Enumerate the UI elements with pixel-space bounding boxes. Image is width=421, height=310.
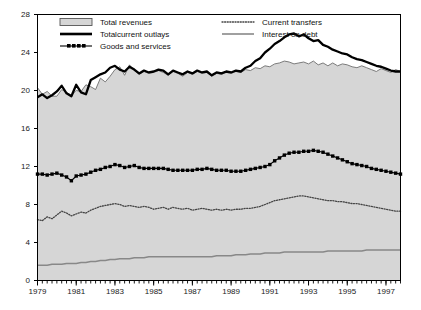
x-tick-label: 1983 <box>95 287 135 296</box>
goods-and-services-marker <box>239 170 242 173</box>
goods-and-services-marker <box>79 173 82 176</box>
goods-and-services-marker <box>70 179 73 182</box>
goods-and-services-marker <box>297 151 300 154</box>
goods-and-services-marker <box>317 150 320 153</box>
legend-label: Interest on debt <box>262 30 318 39</box>
goods-and-services-marker <box>118 164 121 167</box>
goods-and-services-marker <box>287 152 290 155</box>
goods-and-services-marker <box>162 167 165 170</box>
y-tick-label: 28 <box>8 10 30 19</box>
y-tick-label: 4 <box>8 238 30 247</box>
goods-and-services-marker <box>225 169 228 172</box>
x-tick-label: 1991 <box>250 287 290 296</box>
goods-and-services-marker <box>123 166 126 169</box>
goods-and-services-marker <box>249 168 252 171</box>
goods-and-services-marker <box>258 166 261 169</box>
legend-swatch-goods-and-services-marker <box>82 44 86 48</box>
chart-plot-area: Total revenuesTotalcurrent outlaysGoods … <box>0 0 421 310</box>
goods-and-services-marker <box>365 165 368 168</box>
goods-and-services-marker <box>205 167 208 170</box>
goods-and-services-marker <box>60 173 63 176</box>
goods-and-services-marker <box>166 168 169 171</box>
goods-and-services-marker <box>394 171 397 174</box>
y-tick-label: 0 <box>8 276 30 285</box>
y-tick-label: 8 <box>8 200 30 209</box>
goods-and-services-marker <box>220 169 223 172</box>
goods-and-services-marker <box>268 163 271 166</box>
legend-label: Totalcurrent outlays <box>100 30 169 39</box>
goods-and-services-marker <box>133 164 136 167</box>
goods-and-services-marker <box>196 168 199 171</box>
goods-and-services-marker <box>176 169 179 172</box>
x-tick-label: 1997 <box>366 287 406 296</box>
x-tick-label: 1989 <box>211 287 251 296</box>
goods-and-services-marker <box>234 170 237 173</box>
goods-and-services-marker <box>273 159 276 162</box>
goods-and-services-marker <box>210 168 213 171</box>
goods-and-services-marker <box>94 169 97 172</box>
goods-and-services-marker <box>229 170 232 173</box>
goods-and-services-marker <box>157 167 160 170</box>
goods-and-services-marker <box>191 169 194 172</box>
goods-and-services-marker <box>283 153 286 156</box>
legend-label: Goods and services <box>100 42 171 51</box>
goods-and-services-marker <box>113 163 116 166</box>
y-tick-label: 16 <box>8 124 30 133</box>
legend-swatch-total-revenues <box>60 19 92 26</box>
goods-and-services-marker <box>307 150 310 153</box>
goods-and-services-marker <box>375 168 378 171</box>
goods-and-services-marker <box>360 164 363 167</box>
legend-label: Current transfers <box>262 18 322 27</box>
goods-and-services-marker <box>215 169 218 172</box>
goods-and-services-marker <box>263 165 266 168</box>
goods-and-services-marker <box>99 168 102 171</box>
goods-and-services-marker <box>321 151 324 154</box>
y-tick-label: 24 <box>8 48 30 57</box>
goods-and-services-marker <box>104 166 107 169</box>
goods-and-services-marker <box>128 165 131 168</box>
goods-and-services-marker <box>147 167 150 170</box>
goods-and-services-marker <box>75 174 78 177</box>
legend-swatch-goods-and-services-marker <box>72 44 76 48</box>
goods-and-services-marker <box>186 169 189 172</box>
goods-and-services-marker <box>142 167 145 170</box>
goods-and-services-marker <box>84 172 87 175</box>
x-tick-label: 1993 <box>289 287 329 296</box>
goods-and-services-marker <box>89 171 92 174</box>
goods-and-services-marker <box>55 171 58 174</box>
goods-and-services-marker <box>389 171 392 174</box>
goods-and-services-marker <box>336 156 339 159</box>
legend-swatch-goods-and-services-marker <box>77 44 81 48</box>
goods-and-services-marker <box>65 175 68 178</box>
goods-and-services-marker <box>370 167 373 170</box>
x-tick-label: 1985 <box>134 287 174 296</box>
goods-and-services-marker <box>346 160 349 163</box>
goods-and-services-marker <box>292 151 295 154</box>
x-tick-label: 1995 <box>327 287 367 296</box>
goods-and-services-marker <box>379 169 382 172</box>
goods-and-services-marker <box>355 163 358 166</box>
x-tick-label: 1979 <box>18 287 58 296</box>
goods-and-services-marker <box>41 172 44 175</box>
goods-and-services-marker <box>326 152 329 155</box>
goods-and-services-marker <box>137 166 140 169</box>
goods-and-services-marker <box>200 168 203 171</box>
goods-and-services-marker <box>278 156 281 159</box>
goods-and-services-marker <box>312 149 315 152</box>
x-tick-label: 1987 <box>172 287 212 296</box>
goods-and-services-marker <box>331 154 334 157</box>
goods-and-services-marker <box>350 162 353 165</box>
goods-and-services-marker <box>302 150 305 153</box>
goods-and-services-marker <box>244 169 247 172</box>
goods-and-services-marker <box>181 169 184 172</box>
goods-and-services-marker <box>152 167 155 170</box>
goods-and-services-marker <box>384 170 387 173</box>
goods-and-services-marker <box>45 173 48 176</box>
legend-label: Total revenues <box>100 18 152 27</box>
goods-and-services-marker <box>50 172 53 175</box>
legend-swatch-goods-and-services-marker <box>67 44 71 48</box>
goods-and-services-marker <box>108 165 111 168</box>
goods-and-services-marker <box>254 167 257 170</box>
chart-container: Total revenuesTotalcurrent outlaysGoods … <box>0 0 421 310</box>
goods-and-services-marker <box>341 158 344 161</box>
